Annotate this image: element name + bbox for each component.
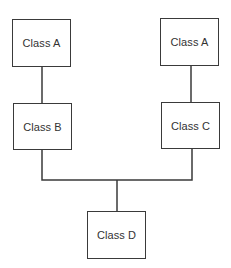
class-b-label: Class B [23, 121, 62, 133]
edge-c-to-junction [117, 149, 192, 180]
class-a-right-box: Class A [160, 18, 219, 66]
class-a-right-label: Class A [171, 36, 209, 48]
class-a-left-box: Class A [12, 19, 71, 67]
class-d-box: Class D [87, 211, 146, 259]
edge-b-to-junction [42, 150, 117, 180]
class-c-label: Class C [171, 120, 210, 132]
class-a-left-label: Class A [23, 37, 61, 49]
class-c-box: Class C [161, 102, 220, 149]
class-b-box: Class B [13, 103, 72, 150]
class-d-label: Class D [97, 229, 136, 241]
